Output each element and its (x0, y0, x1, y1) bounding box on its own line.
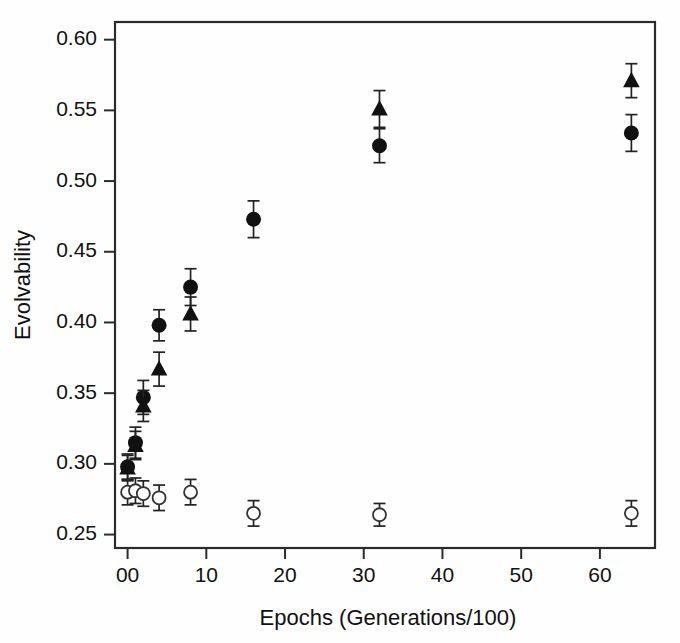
scatter-plot: 0.250.300.350.400.450.500.550.60 0010203… (0, 0, 680, 643)
marker-filled-circle (246, 212, 261, 227)
x-axis-title: Epochs (Generations/100) (260, 605, 517, 630)
y-tick-label: 0.60 (56, 26, 97, 49)
marker-filled-triangle (182, 305, 199, 320)
x-tick-label: 60 (588, 563, 611, 586)
data-point (184, 479, 197, 504)
data-point (246, 201, 261, 238)
data-point (152, 310, 167, 341)
marker-filled-circle (624, 125, 639, 140)
data-series-layer (119, 64, 639, 526)
y-axis-title: Evolvability (10, 230, 35, 340)
figure-panel: 0.250.300.350.400.450.500.550.60 0010203… (0, 0, 680, 643)
marker-filled-triangle (371, 100, 388, 115)
marker-open-circle (247, 507, 260, 520)
marker-open-circle (184, 486, 197, 499)
data-point (151, 352, 168, 386)
marker-filled-circle (183, 280, 198, 295)
y-tick-label: 0.35 (56, 380, 97, 403)
marker-open-circle (373, 508, 386, 521)
y-tick-label: 0.45 (56, 238, 97, 261)
y-axis-ticks: 0.250.300.350.400.450.500.550.60 (56, 26, 115, 544)
data-point (623, 64, 640, 98)
x-axis-ticks: 00102030405060 (116, 548, 612, 586)
y-tick-label: 0.30 (56, 450, 97, 473)
y-tick-label: 0.25 (56, 521, 97, 544)
x-tick-label: 50 (510, 563, 533, 586)
y-tick-label: 0.40 (56, 309, 97, 332)
x-tick-label: 20 (273, 563, 296, 586)
data-point (373, 503, 386, 526)
series-filled-circle (120, 115, 639, 480)
series-filled-triangle (119, 64, 639, 481)
data-point (182, 297, 199, 331)
data-point (372, 129, 387, 163)
data-point (371, 91, 388, 128)
marker-filled-circle (372, 138, 387, 153)
marker-open-circle (153, 491, 166, 504)
marker-filled-triangle (151, 360, 168, 375)
y-tick-label: 0.50 (56, 168, 97, 191)
marker-filled-circle (152, 318, 167, 333)
y-tick-label: 0.55 (56, 97, 97, 120)
data-point (153, 485, 166, 510)
data-point (247, 501, 260, 526)
x-tick-label: 00 (116, 563, 139, 586)
series-open-circle (121, 478, 638, 526)
x-tick-label: 40 (431, 563, 454, 586)
data-point (625, 501, 638, 526)
x-tick-label: 30 (352, 563, 375, 586)
marker-open-circle (625, 507, 638, 520)
marker-open-circle (137, 487, 150, 500)
data-point (624, 115, 639, 152)
marker-filled-triangle (623, 72, 640, 87)
x-tick-label: 10 (195, 563, 218, 586)
